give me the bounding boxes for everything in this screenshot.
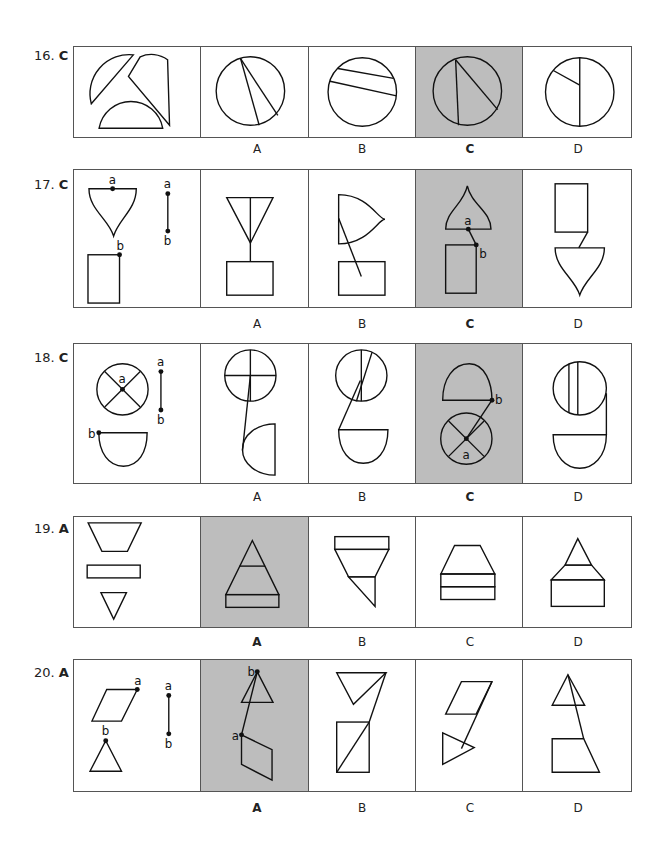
- q16-label-b: B: [352, 142, 372, 156]
- q16-option-b[interactable]: [309, 47, 416, 137]
- q20-option-d[interactable]: [523, 660, 631, 791]
- q16-label-a: A: [247, 142, 267, 156]
- svg-text:a: a: [109, 173, 116, 187]
- q19-label-c: C: [460, 635, 480, 649]
- q19-label-d: D: [568, 635, 588, 649]
- question-18-number: 18. C: [34, 350, 68, 365]
- q16-option-a[interactable]: [201, 47, 310, 137]
- question-17-row: a ab b ab: [73, 169, 632, 308]
- svg-text:b: b: [247, 665, 255, 679]
- q19-option-c[interactable]: [416, 517, 524, 627]
- q17-label-b: B: [352, 317, 372, 331]
- svg-text:a: a: [157, 355, 164, 369]
- q19-option-a[interactable]: [201, 517, 310, 627]
- q18-option-a[interactable]: [201, 344, 310, 483]
- svg-text:a: a: [119, 372, 126, 386]
- svg-text:a: a: [134, 674, 141, 688]
- q17-label-c: C: [460, 317, 480, 331]
- q18-option-c[interactable]: ab: [416, 344, 524, 483]
- q17-option-c[interactable]: ab: [416, 170, 524, 307]
- svg-text:a: a: [164, 177, 171, 191]
- svg-text:b: b: [165, 737, 173, 751]
- q17-label-d: D: [568, 317, 588, 331]
- q20-label-b: B: [352, 801, 372, 815]
- q18-option-b[interactable]: [309, 344, 416, 483]
- q17-prompt: a ab b: [74, 170, 201, 307]
- svg-text:a: a: [165, 679, 172, 693]
- question-20-row: a ab b ba: [73, 659, 632, 792]
- q16-label-d: D: [568, 142, 588, 156]
- svg-text:b: b: [88, 427, 96, 441]
- q16-prompt: [74, 47, 201, 137]
- svg-text:b: b: [164, 234, 172, 248]
- q16-option-d[interactable]: [523, 47, 631, 137]
- question-16-row: [73, 46, 632, 138]
- q18-label-a: A: [247, 490, 267, 504]
- question-18-row: a ab b ab: [73, 343, 632, 484]
- svg-text:b: b: [157, 413, 165, 427]
- question-19-number: 19. A: [34, 521, 69, 536]
- q19-label-a: A: [247, 635, 267, 649]
- q18-label-c: C: [460, 490, 480, 504]
- q17-label-a: A: [247, 317, 267, 331]
- svg-text:b: b: [479, 247, 487, 261]
- q20-option-a[interactable]: ba: [201, 660, 310, 791]
- q20-label-a: A: [247, 801, 267, 815]
- q19-prompt: [74, 517, 201, 627]
- q19-label-b: B: [352, 635, 372, 649]
- q16-pieces-figure: [74, 47, 200, 137]
- q20-label-d: D: [568, 801, 588, 815]
- q19-option-d[interactable]: [523, 517, 631, 627]
- svg-text:b: b: [495, 393, 503, 407]
- q18-prompt: a ab b: [74, 344, 201, 483]
- q20-label-c: C: [460, 801, 480, 815]
- q16-label-c: C: [460, 142, 480, 156]
- q18-label-d: D: [568, 490, 588, 504]
- q16-option-c[interactable]: [416, 47, 524, 137]
- svg-text:b: b: [117, 239, 125, 253]
- question-19-row: [73, 516, 632, 628]
- question-20-number: 20. A: [34, 665, 69, 680]
- q20-option-b[interactable]: [309, 660, 416, 791]
- q20-prompt: a ab b: [74, 660, 201, 791]
- q17-option-a[interactable]: [201, 170, 310, 307]
- q19-option-b[interactable]: [309, 517, 416, 627]
- q17-option-d[interactable]: [523, 170, 631, 307]
- svg-text:a: a: [462, 448, 469, 462]
- svg-text:a: a: [464, 214, 471, 228]
- q20-option-c[interactable]: [416, 660, 524, 791]
- svg-text:a: a: [231, 729, 238, 743]
- question-17-number: 17. C: [34, 177, 68, 192]
- question-16-number: 16. C: [34, 48, 68, 63]
- q17-option-b[interactable]: [309, 170, 416, 307]
- q18-label-b: B: [352, 490, 372, 504]
- q18-option-d[interactable]: [523, 344, 631, 483]
- svg-text:b: b: [102, 724, 110, 738]
